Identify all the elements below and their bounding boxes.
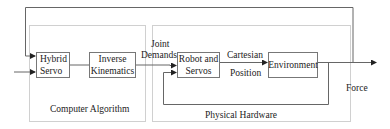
cartesian-position-label-line1: Cartesian — [227, 50, 263, 61]
joint-demands-label-line2: Demands — [141, 50, 177, 61]
group-label-computer-algorithm: Computer Algorithm — [50, 104, 129, 115]
force-label: Force — [346, 83, 368, 94]
robot-and-servos-label-line1: Robot and — [179, 53, 218, 65]
block-hybrid-servo: Hybrid Servo — [36, 52, 70, 78]
inverse-kinematics-label-line1: Inverse — [91, 53, 134, 65]
cartesian-position-label-line2: Position — [230, 68, 261, 79]
joint-demands-label-line1: Joint — [151, 39, 169, 50]
block-robot-and-servos: Robot and Servos — [177, 52, 220, 78]
joint-demands-arrow — [136, 65, 176, 66]
robot-and-servos-label-line2: Servos — [179, 65, 218, 77]
block-inverse-kinematics: Inverse Kinematics — [89, 52, 136, 78]
block-environment: Environment — [268, 52, 318, 78]
hybrid-servo-label-line1: Hybrid — [40, 53, 67, 65]
environment-label: Environment — [268, 59, 318, 71]
group-label-physical-hardware: Physical Hardware — [205, 110, 277, 121]
hybrid-servo-label-line2: Servo — [40, 65, 67, 77]
inverse-kinematics-label-line2: Kinematics — [91, 65, 134, 77]
